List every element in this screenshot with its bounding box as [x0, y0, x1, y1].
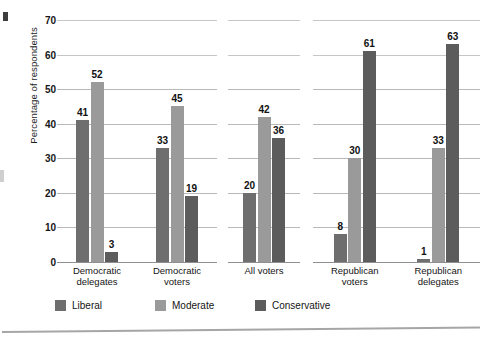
bar-conservative: 3: [105, 252, 118, 262]
bar-conservative: 19: [185, 196, 198, 262]
y-tick-20: 20: [22, 187, 56, 198]
bar-chart-figure: Percentage of respondents 01020304050607…: [0, 0, 486, 344]
legend-item-conservative[interactable]: Conservative: [255, 300, 330, 311]
bar-moderate: 33: [432, 148, 445, 262]
bar-value-label: 1: [421, 247, 427, 257]
bar-value-label: 33: [157, 136, 168, 146]
bar-value-label: 19: [186, 184, 197, 194]
bar-conservative: 61: [363, 51, 376, 262]
x-category-label-4: Republican voters: [310, 265, 400, 287]
page-edge-artifact: [3, 12, 8, 21]
y-axis-tick-labels: 010203040506070: [20, 0, 56, 344]
bar-liberal: 33: [156, 148, 169, 262]
gridline-0: [228, 262, 300, 263]
bar-moderate: 42: [258, 117, 271, 262]
y-tick-40: 40: [22, 118, 56, 129]
bar-value-label: 30: [349, 146, 360, 156]
y-tick-50: 50: [22, 84, 56, 95]
legend-item-liberal[interactable]: Liberal: [55, 300, 102, 311]
legend-swatch-icon-moderate: [155, 300, 166, 311]
bar-value-label: 36: [273, 126, 284, 136]
bar-moderate: 52: [91, 82, 104, 262]
bar-value-label: 52: [91, 70, 102, 80]
bar-moderate: 45: [171, 106, 184, 262]
bar-value-label: 63: [447, 32, 458, 42]
legend-item-moderate[interactable]: Moderate: [155, 300, 214, 311]
x-category-label-1: Democratic delegates: [52, 265, 142, 287]
chart-legend: LiberalModerateConservative: [0, 300, 486, 320]
y-tick-70: 70: [22, 15, 56, 26]
legend-swatch-icon-conservative: [255, 300, 266, 311]
chart-panel-1: 41523334519: [57, 20, 217, 262]
bar-value-label: 41: [77, 108, 88, 118]
gridline-0: [57, 262, 217, 263]
x-category-label-3: All voters: [219, 265, 309, 276]
y-tick-10: 10: [22, 222, 56, 233]
bar-group: 83061: [313, 20, 397, 262]
page-edge-artifact-2: [0, 170, 4, 182]
bar-group: 41523: [57, 20, 137, 262]
bar-value-label: 3: [109, 240, 115, 250]
bar-group: 13363: [397, 20, 481, 262]
chart-panel-3: 8306113363: [313, 20, 480, 262]
legend-swatch-icon-liberal: [55, 300, 66, 311]
bottom-divider-rule: [2, 326, 480, 333]
bar-value-label: 61: [364, 39, 375, 49]
gridline-0: [313, 262, 480, 263]
x-category-label-2: Democratic voters: [132, 265, 222, 287]
bar-value-label: 45: [171, 94, 182, 104]
bar-value-label: 20: [244, 181, 255, 191]
legend-label: Liberal: [72, 300, 102, 311]
bar-value-label: 8: [337, 222, 343, 232]
bar-group: 204236: [228, 20, 300, 262]
bar-liberal: 8: [334, 234, 347, 262]
bar-value-label: 42: [258, 105, 269, 115]
bar-conservative: 36: [272, 138, 285, 262]
bar-liberal: 1: [417, 259, 430, 262]
bar-group: 334519: [137, 20, 217, 262]
y-tick-30: 30: [22, 153, 56, 164]
bar-liberal: 41: [76, 120, 89, 262]
chart-panel-2: 204236: [228, 20, 300, 262]
bar-moderate: 30: [348, 158, 361, 262]
y-tick-60: 60: [22, 49, 56, 60]
bar-value-label: 33: [433, 136, 444, 146]
bar-liberal: 20: [243, 193, 256, 262]
bar-conservative: 63: [446, 44, 459, 262]
x-category-label-5: Republican delegates: [393, 265, 483, 287]
legend-label: Moderate: [172, 300, 214, 311]
legend-label: Conservative: [272, 300, 330, 311]
y-tick-0: 0: [22, 257, 56, 268]
